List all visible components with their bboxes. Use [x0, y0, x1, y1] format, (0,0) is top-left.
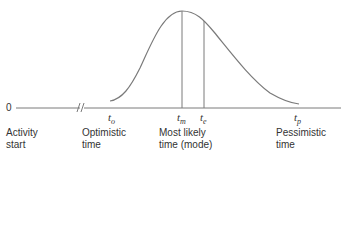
label-pessimistic-line1: Pessimistic — [276, 127, 326, 139]
label-activity-start-line1: Activity — [6, 127, 38, 139]
label-optimistic-time: Optimistic time — [82, 127, 126, 151]
symbol-t-e: te — [200, 111, 207, 126]
label-most-likely-line2: time (mode) — [159, 139, 212, 151]
label-optimistic-line1: Optimistic — [82, 127, 126, 139]
axis-break-mark-2 — [81, 103, 84, 112]
label-pessimistic-time: Pessimistic time — [276, 127, 326, 151]
origin-label: 0 — [6, 102, 12, 114]
label-pessimistic-line2: time — [276, 139, 326, 151]
symbol-t-m: tm — [177, 111, 186, 126]
symbol-t-p: tp — [294, 111, 301, 126]
label-optimistic-line2: time — [82, 139, 126, 151]
label-activity-start-line2: start — [6, 139, 38, 151]
label-most-likely-line1: Most likely — [159, 127, 212, 139]
symbol-t-o: to — [108, 111, 115, 126]
label-activity-start: Activity start — [6, 127, 38, 151]
label-most-likely-time: Most likely time (mode) — [159, 127, 212, 151]
